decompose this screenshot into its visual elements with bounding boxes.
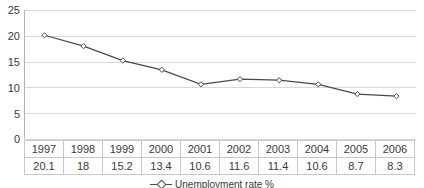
data-point-marker <box>42 33 47 38</box>
data-point-marker <box>316 82 321 87</box>
legend-diamond-marker-icon <box>150 180 172 188</box>
table-row-values: 20.1 18 15.2 13.4 10.6 11.6 11.4 10.6 8.… <box>25 158 415 175</box>
legend-label: Unemployment rate % <box>175 179 274 188</box>
y-tick-label: 5 <box>14 109 20 120</box>
table-cell-year: 1999 <box>103 141 142 158</box>
table-cell-value: 18 <box>64 158 103 175</box>
y-tick-label: 10 <box>8 83 20 94</box>
plot-area <box>24 10 416 139</box>
table-cell-value: 10.6 <box>181 158 220 175</box>
data-table: 1997 1998 1999 2000 2001 2002 2003 2004 … <box>24 140 415 175</box>
table-cell-value: 11.6 <box>220 158 259 175</box>
table-cell-year: 2006 <box>376 141 415 158</box>
table-cell-value: 11.4 <box>259 158 298 175</box>
series-line <box>45 35 397 96</box>
data-point-marker <box>120 58 125 63</box>
data-point-marker <box>81 44 86 49</box>
y-tick-label: 15 <box>8 57 20 68</box>
table-cell-year: 1998 <box>64 141 103 158</box>
table-cell-year: 2003 <box>259 141 298 158</box>
data-point-marker <box>277 78 282 83</box>
y-tick-label: 25 <box>8 5 20 16</box>
table-cell-year: 2002 <box>220 141 259 158</box>
table-cell-value: 20.1 <box>25 158 64 175</box>
table-cell-value: 8.7 <box>337 158 376 175</box>
table-cell-value: 10.6 <box>298 158 337 175</box>
table-cell-value: 15.2 <box>103 158 142 175</box>
unemployment-rate-line-chart: 25 20 15 10 5 0 1997 1998 1999 2000 2001… <box>0 0 424 188</box>
y-tick-label: 0 <box>14 134 20 145</box>
data-point-marker <box>394 94 399 99</box>
table-cell-year: 2004 <box>298 141 337 158</box>
data-series-unemployment-rate <box>25 10 416 139</box>
data-point-marker <box>237 77 242 82</box>
table-cell-year: 2005 <box>337 141 376 158</box>
table-cell-year: 2001 <box>181 141 220 158</box>
data-point-marker <box>198 82 203 87</box>
data-point-marker <box>159 67 164 72</box>
data-point-marker <box>355 92 360 97</box>
y-axis: 25 20 15 10 5 0 <box>0 0 22 145</box>
table-row-years: 1997 1998 1999 2000 2001 2002 2003 2004 … <box>25 141 415 158</box>
table-cell-year: 1997 <box>25 141 64 158</box>
table-cell-year: 2000 <box>142 141 181 158</box>
chart-legend: Unemployment rate % <box>0 178 424 188</box>
table-cell-value: 8.3 <box>376 158 415 175</box>
table-cell-value: 13.4 <box>142 158 181 175</box>
y-tick-label: 20 <box>8 31 20 42</box>
